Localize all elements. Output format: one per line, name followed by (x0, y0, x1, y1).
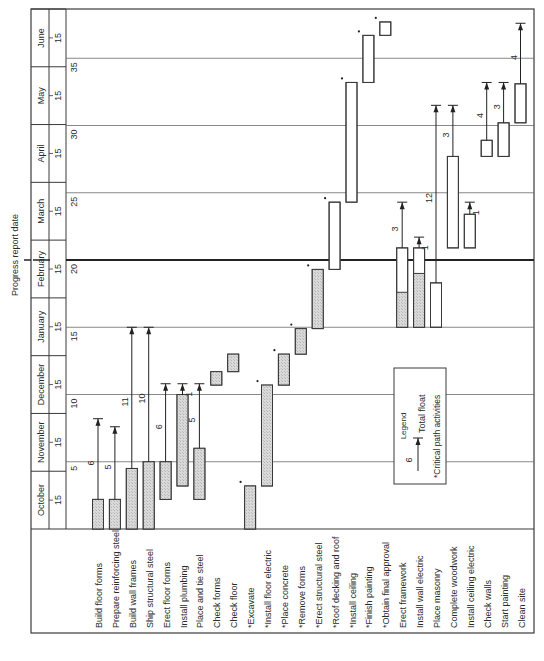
activity-label: Ship structural steel (145, 549, 155, 628)
activity-bar-completed (161, 462, 171, 499)
week-label: 20 (69, 264, 79, 274)
activity-bar (329, 202, 340, 269)
activity-place-concrete (273, 349, 289, 385)
progress-report-date-label: Progress report date (10, 214, 20, 296)
float-arrow-head-icon (434, 105, 439, 112)
chart-frame (31, 9, 534, 633)
activity-excavate (240, 481, 256, 529)
activity-label: Install plumbing (179, 565, 189, 628)
activity-install-ceiling (341, 77, 357, 202)
activity-bar (346, 82, 357, 202)
activity-label: Install wall electric (415, 555, 425, 628)
critical-asterisk-icon (341, 77, 343, 79)
float-arrow-head-icon (163, 384, 168, 391)
activity-bar-completed (313, 269, 323, 328)
activity-bar-completed (110, 499, 120, 528)
activity-label: *Place concrete (280, 565, 290, 628)
activity-label: Check floor (229, 582, 239, 628)
total-float-label: 3 (441, 132, 451, 137)
activity-bar-completed (211, 372, 221, 385)
activity-prepare-reinforcing-steel (109, 427, 120, 529)
month-label-may: May (36, 87, 46, 105)
activity-remove-forms (290, 323, 306, 354)
critical-asterisk-icon (240, 481, 242, 483)
activity-finish-painting (358, 30, 374, 82)
total-float-label: 1 (471, 210, 481, 215)
float-arrow-head-icon (467, 202, 472, 209)
activity-ship-structural-steel (143, 327, 154, 529)
total-float-label: 3 (390, 227, 400, 232)
legend-float-example: 6 (404, 457, 414, 462)
critical-asterisk-icon (273, 349, 275, 351)
week-label: 25 (69, 197, 79, 207)
activity-bar (498, 123, 509, 157)
activity-obtain-final-approval (375, 17, 391, 36)
total-float-label: 10 (137, 393, 147, 403)
float-arrow-head-icon (417, 237, 422, 244)
activity-bar (363, 35, 374, 82)
activity-label: *Install floor electric (263, 549, 273, 628)
activity-label: *Excavate (246, 587, 256, 628)
activity-erect-framework (397, 202, 408, 327)
activity-bar (464, 214, 475, 248)
activity-check-forms (211, 372, 222, 385)
critical-asterisk-icon (324, 197, 326, 199)
activity-bar (431, 283, 442, 327)
float-arrow-head-icon (501, 82, 506, 89)
activity-bar (447, 156, 458, 247)
activity-label: *Remove forms (297, 565, 307, 628)
float-arrow-head-icon (129, 327, 134, 334)
activity-erect-structural-steel (307, 264, 323, 328)
activity-bar-completed (245, 486, 255, 529)
total-float-label: 5 (103, 465, 113, 470)
activity-check-walls (481, 82, 492, 156)
week-label: 15 (69, 331, 79, 341)
total-float-label: 1 (184, 392, 194, 397)
critical-asterisk-icon (375, 17, 377, 19)
activity-bar-completed (93, 499, 103, 528)
activity-install-ceiling-electric (464, 202, 475, 248)
month-label-april: April (36, 144, 46, 162)
activity-label: Erect framework (398, 562, 408, 628)
activity-place-masonry (431, 105, 442, 327)
activity-bar (515, 84, 526, 123)
critical-asterisk-icon (256, 380, 258, 382)
activity-label: Build floor forms (94, 562, 104, 628)
float-arrow-head-icon (112, 427, 117, 434)
mid-month-label: 15 (53, 495, 63, 505)
month-label-january: January (36, 310, 46, 343)
activity-label: *Install ceiling (348, 573, 358, 628)
legend-critical-label: *Critical path activities (432, 395, 442, 478)
float-arrow-head-icon (96, 419, 101, 426)
activity-bar-completed (178, 395, 188, 486)
week-label: 35 (69, 62, 79, 72)
mid-month-label: 15 (53, 437, 63, 447)
activity-bar (380, 22, 391, 35)
activity-bar-completed (279, 354, 289, 384)
activity-label: Place and tie steel (195, 554, 205, 628)
activity-bar-completed (397, 292, 407, 326)
activity-build-wall-frames (126, 327, 137, 529)
activity-label: *Obtain final approval (381, 542, 391, 628)
activity-label: Complete woodwork (449, 546, 459, 628)
activity-bar (481, 140, 492, 156)
total-float-label: 4 (509, 55, 519, 60)
week-label: 30 (69, 130, 79, 140)
activity-place-and-tie-steel (194, 384, 205, 500)
activity-label: *Erect structural steel (314, 542, 324, 628)
activity-label: Build wall frames (128, 559, 138, 628)
float-arrow-head-icon (484, 82, 489, 89)
gantt-chart: October15November15December15January15Fe… (0, 0, 544, 661)
activity-bar-completed (144, 462, 154, 529)
activity-label: Check walls (483, 579, 493, 628)
activity-roof-decking-and-roof (324, 197, 340, 269)
activity-complete-woodwork (447, 105, 458, 248)
activity-label: Erect floor forms (162, 561, 172, 628)
activity-label: Prepare reinforcing steel (111, 530, 121, 628)
activity-install-floor-electric (256, 380, 272, 486)
activity-bar-completed (194, 448, 204, 499)
activity-install-plumbing (177, 384, 188, 486)
month-label-february: February (36, 250, 46, 287)
float-arrow-head-icon (180, 384, 185, 391)
activity-label: Check forms (212, 577, 222, 628)
